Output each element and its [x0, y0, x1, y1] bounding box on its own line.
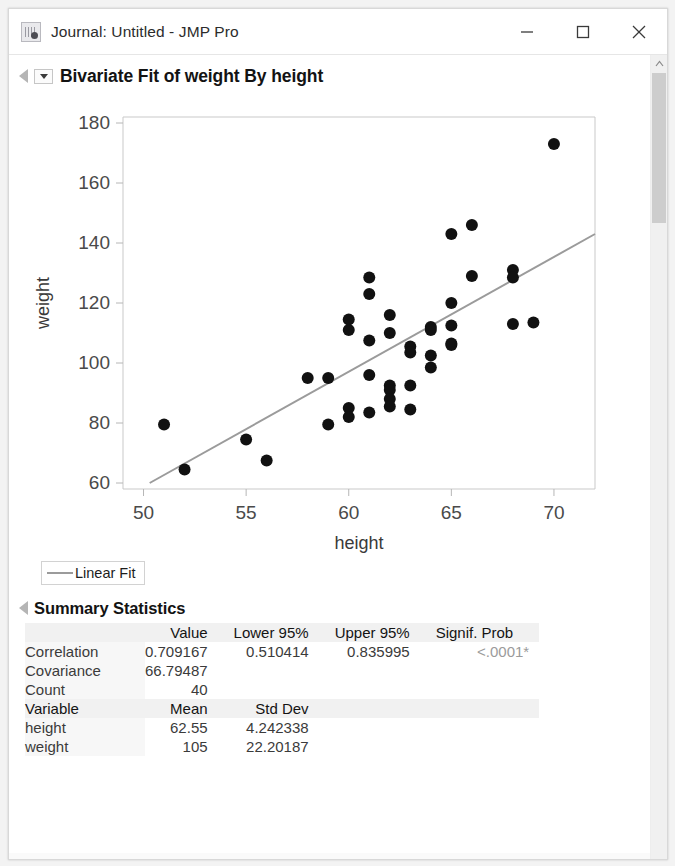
data-point — [363, 369, 375, 381]
stats-cell-value: 66.79487 — [145, 661, 234, 680]
window-title: Journal: Untitled - JMP Pro — [51, 23, 239, 41]
close-icon — [631, 24, 647, 40]
bivariate-outline-header[interactable]: Bivariate Fit of weight By height — [9, 63, 650, 89]
page-title: Bivariate Fit of weight By height — [60, 66, 323, 87]
y-tick-label: 100 — [78, 352, 110, 373]
summary-statistics-outline-header[interactable]: Summary Statistics — [9, 595, 650, 621]
y-tick-label: 60 — [89, 472, 110, 493]
legend-line-swatch — [47, 572, 73, 574]
maximize-button[interactable] — [555, 9, 611, 55]
stats-cell-upper — [335, 680, 436, 699]
stats-header-row: ValueLower 95%Upper 95%Signif. Prob — [25, 623, 539, 642]
stats-cell-upper — [335, 661, 436, 680]
y-axis-label: weight — [33, 277, 53, 330]
linear-fit-line — [150, 234, 595, 483]
data-point — [507, 272, 519, 284]
data-point — [425, 350, 437, 362]
variable-header-cell: Mean — [145, 699, 234, 718]
table-row: Count40 — [25, 680, 539, 699]
scatterplot[interactable]: 60801001201401601805055606570heightweigh… — [15, 89, 635, 559]
data-point — [425, 362, 437, 374]
stats-cell-lower: 0.510414 — [234, 642, 335, 661]
variable-header-cell: Std Dev — [234, 699, 335, 718]
window-controls — [499, 9, 667, 55]
stats-header-cell: Lower 95% — [234, 623, 335, 642]
chevron-down-icon — [40, 74, 48, 79]
data-point — [363, 272, 375, 284]
report-pane: Bivariate Fit of weight By height 608010… — [9, 55, 650, 859]
variable-cell-mean: 62.55 — [145, 718, 234, 737]
table-row: weight10522.20187 — [25, 737, 539, 756]
scatterplot-canvas: 60801001201401601805055606570heightweigh… — [15, 89, 635, 559]
x-tick-label: 55 — [236, 502, 257, 523]
data-point — [445, 228, 457, 240]
table-row: height62.554.242338 — [25, 718, 539, 737]
data-point — [445, 339, 457, 351]
data-point — [384, 309, 396, 321]
stats-cell-prob — [436, 661, 540, 680]
x-tick-label: 70 — [543, 502, 564, 523]
screenshot-root: Journal: Untitled - JMP Pro — [0, 0, 675, 866]
variable-header-row: VariableMeanStd Dev — [25, 699, 539, 718]
stats-cell-value: 40 — [145, 680, 234, 699]
table-row: Covariance66.79487 — [25, 661, 539, 680]
x-tick-label: 60 — [338, 502, 359, 523]
stats-row-label: Count — [25, 680, 145, 699]
data-point — [527, 317, 539, 329]
scrollbar-thumb[interactable] — [652, 73, 666, 223]
stats-cell-upper: 0.835995 — [335, 642, 436, 661]
data-point — [404, 347, 416, 359]
data-point — [507, 318, 519, 330]
y-tick-label: 160 — [78, 172, 110, 193]
data-point — [384, 327, 396, 339]
stats-cell-lower — [234, 661, 335, 680]
data-point — [179, 464, 191, 476]
report-bottom-strip — [9, 853, 650, 859]
data-point — [158, 419, 170, 431]
x-axis-label: height — [334, 533, 383, 553]
data-point — [343, 324, 355, 336]
data-point — [466, 270, 478, 282]
data-point — [363, 288, 375, 300]
report-menu-button[interactable] — [34, 69, 53, 84]
y-tick-label: 120 — [78, 292, 110, 313]
x-tick-label: 65 — [441, 502, 462, 523]
jmp-journal-window: Journal: Untitled - JMP Pro — [8, 8, 668, 860]
variable-cell-pad — [436, 718, 540, 737]
variable-header-pad — [335, 699, 436, 718]
disclosure-triangle-icon[interactable] — [19, 69, 28, 83]
data-point — [363, 335, 375, 347]
disclosure-triangle-icon[interactable] — [19, 601, 28, 615]
linear-fit-legend[interactable]: Linear Fit — [41, 561, 145, 585]
stats-cell-lower — [234, 680, 335, 699]
data-point — [425, 324, 437, 336]
data-point — [240, 434, 252, 446]
window-content: Bivariate Fit of weight By height 608010… — [9, 55, 667, 859]
variable-cell-pad — [335, 718, 436, 737]
stats-cell-value: 0.709167 — [145, 642, 234, 661]
stats-table: ValueLower 95%Upper 95%Signif. ProbCorre… — [25, 623, 539, 756]
variable-header-pad — [436, 699, 540, 718]
vertical-scrollbar[interactable] — [650, 55, 667, 859]
summary-statistics-title: Summary Statistics — [34, 599, 185, 618]
jmp-journal-icon — [21, 22, 41, 42]
maximize-icon — [576, 25, 590, 39]
variable-header-cell: Variable — [25, 699, 145, 718]
data-point — [404, 380, 416, 392]
variable-cell-sd: 22.20187 — [234, 737, 335, 756]
data-point — [322, 372, 334, 384]
stats-row-label: Covariance — [25, 661, 145, 680]
stats-header-cell: Value — [145, 623, 234, 642]
scroll-up-button[interactable] — [651, 55, 668, 72]
data-point — [548, 138, 560, 150]
data-point — [343, 314, 355, 326]
close-button[interactable] — [611, 9, 667, 55]
data-point — [322, 419, 334, 431]
data-point — [445, 320, 457, 332]
variable-cell-pad — [436, 737, 540, 756]
minimize-button[interactable] — [499, 9, 555, 55]
minimize-icon — [520, 25, 534, 39]
variable-cell-mean: 105 — [145, 737, 234, 756]
data-point — [404, 404, 416, 416]
stats-row-label: Correlation — [25, 642, 145, 661]
